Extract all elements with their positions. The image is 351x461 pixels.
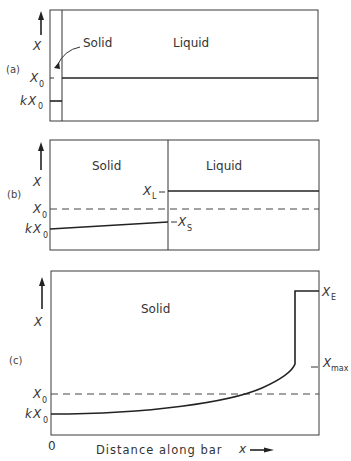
y-axis-arrow-icon bbox=[38, 11, 44, 35]
panel-label: (a) bbox=[6, 64, 20, 75]
kx0-subscript: 0 bbox=[43, 231, 48, 240]
y-axis-arrow-icon bbox=[38, 142, 44, 170]
kx0-k: k bbox=[25, 222, 33, 236]
kx0-k: k bbox=[25, 407, 33, 421]
panel-c: X (c) Solid X E X max X 0 k X 0 0 Distan… bbox=[9, 271, 349, 457]
panel-b: X (b) Solid Liquid X L X 0 k X 0 X S bbox=[7, 140, 319, 250]
pointer-arrow-icon bbox=[54, 47, 80, 69]
xl-label: X bbox=[142, 184, 152, 198]
y-axis-label: X bbox=[32, 175, 42, 189]
origin-label: 0 bbox=[48, 439, 56, 453]
xs-subscript: S bbox=[187, 224, 192, 233]
solid-label: Solid bbox=[141, 302, 170, 316]
liquid-label: Liquid bbox=[206, 159, 242, 173]
liquid-label: Liquid bbox=[173, 36, 209, 50]
x-axis-variable: x bbox=[238, 442, 247, 456]
panel-c-frame bbox=[51, 271, 319, 435]
solid-label: Solid bbox=[83, 36, 112, 50]
diagram: X (a) X 0 k X 0 Solid Liquid X (b) Solid… bbox=[0, 0, 351, 461]
panel-a: X (a) X 0 k X 0 Solid Liquid bbox=[6, 10, 318, 121]
kx0-label: X bbox=[27, 94, 37, 108]
xmax-subscript: max bbox=[331, 364, 349, 373]
panel-label: (b) bbox=[7, 189, 21, 200]
y-axis-label: X bbox=[32, 39, 42, 53]
x-axis-label: Distance along bar bbox=[96, 443, 223, 457]
panel-b-frame bbox=[50, 140, 319, 250]
xe-label: X bbox=[321, 285, 331, 299]
solid-label: Solid bbox=[92, 159, 121, 173]
y-axis-arrow-icon bbox=[39, 277, 45, 309]
x0-subscript: 0 bbox=[42, 211, 47, 220]
x0-label: X bbox=[32, 202, 42, 216]
x0-subscript: 0 bbox=[39, 80, 44, 89]
x0-label: X bbox=[32, 387, 42, 401]
x-axis-arrow-icon bbox=[250, 448, 274, 453]
y-axis-label: X bbox=[33, 315, 43, 329]
kx0-subscript: 0 bbox=[38, 102, 43, 111]
panel-label: (c) bbox=[9, 355, 22, 366]
xl-subscript: L bbox=[152, 192, 157, 201]
xs-label: X bbox=[177, 215, 187, 229]
solid-profile bbox=[50, 222, 168, 229]
kx0-k: k bbox=[20, 94, 28, 108]
x0-subscript: 0 bbox=[42, 396, 47, 405]
panel-a-frame bbox=[50, 10, 318, 121]
kx0-label: X bbox=[32, 222, 42, 236]
x0-label: X bbox=[29, 71, 39, 85]
xe-subscript: E bbox=[331, 293, 336, 302]
solid-concentration-curve bbox=[51, 291, 319, 414]
kx0-subscript: 0 bbox=[43, 416, 48, 425]
kx0-label: X bbox=[32, 407, 42, 421]
